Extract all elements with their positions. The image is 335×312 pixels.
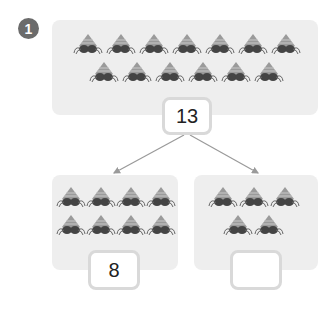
arrow-right [190, 135, 258, 173]
hermit-crab-icon [86, 185, 116, 209]
hermit-crab-icon [146, 213, 176, 237]
hermit-crab-icon [116, 185, 146, 209]
hermit-crab-icon [116, 213, 146, 237]
hermit-crab-icon [223, 213, 253, 237]
hermit-crab-icon [56, 213, 86, 237]
hermit-crab-icon [239, 185, 269, 209]
hermit-crab-icon [86, 213, 116, 237]
crab-row-2 [56, 213, 176, 237]
hermit-crab-icon [146, 185, 176, 209]
hermit-crab-icon [270, 185, 300, 209]
hermit-crab-icon [254, 213, 284, 237]
hermit-crab-icon [56, 185, 86, 209]
arrow-left [114, 135, 184, 173]
part-1-number-box: 8 [88, 250, 140, 290]
crab-row-2 [223, 213, 284, 237]
hermit-crab-icon [208, 185, 238, 209]
part-2-answer-box[interactable] [230, 250, 282, 290]
crab-row-1 [56, 185, 176, 209]
total-number-box: 13 [162, 97, 212, 135]
crab-row-1 [208, 185, 300, 209]
